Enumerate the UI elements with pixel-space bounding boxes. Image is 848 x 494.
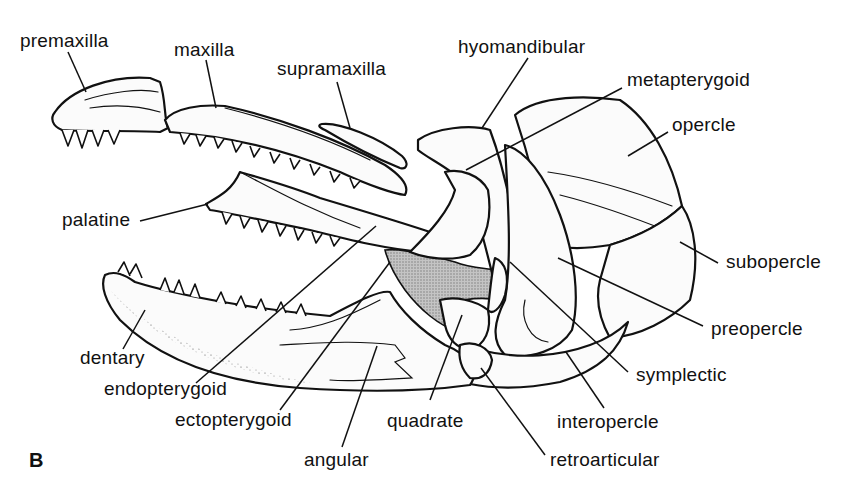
label-preopercle: preopercle	[711, 318, 803, 340]
label-retroarticular: retroarticular	[550, 449, 659, 471]
premaxilla-bone	[52, 78, 168, 148]
label-endopterygoid: endopterygoid	[104, 378, 227, 400]
label-quadrate: quadrate	[387, 410, 464, 432]
label-metapterygoid: metapterygoid	[627, 69, 750, 91]
label-premaxilla: premaxilla	[20, 30, 109, 52]
label-hyomandibular: hyomandibular	[458, 36, 585, 58]
metapterygoid-bone	[410, 171, 489, 259]
label-symplectic: symplectic	[636, 364, 727, 386]
label-palatine: palatine	[62, 209, 130, 231]
label-dentary: dentary	[80, 347, 145, 369]
label-angular: angular	[304, 449, 369, 471]
label-ectopterygoid: ectopterygoid	[175, 409, 292, 431]
label-subopercle: subopercle	[726, 251, 821, 273]
label-opercle: opercle	[672, 114, 736, 136]
label-interopercle: interopercle	[557, 411, 659, 433]
quadrate-bone	[440, 298, 489, 350]
panel-letter: B	[29, 449, 43, 472]
label-supramaxilla: supramaxilla	[277, 58, 386, 80]
label-maxilla: maxilla	[174, 39, 235, 61]
